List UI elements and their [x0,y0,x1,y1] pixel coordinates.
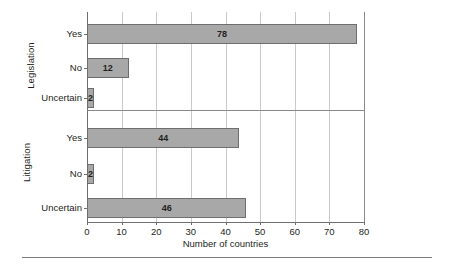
x-tick-label-0: 0 [84,226,89,237]
x-tick-10 [122,222,123,225]
category-axis-labels: Yes No Uncertain Yes No Uncertain [18,12,82,222]
bar-row-litigation-no[interactable]: 2 [87,164,364,184]
bar-row-litigation-yes[interactable]: 44 [87,128,364,148]
category-label-legislation-no: No [22,58,82,78]
x-tick-label-50: 50 [255,226,266,237]
category-label-litigation-no: No [22,164,82,184]
x-tick-80 [364,222,365,225]
bar-row-legislation-yes[interactable]: 78 [87,24,364,44]
x-tick-50 [260,222,261,225]
bar-litigation-no[interactable] [87,164,94,184]
x-tick-0 [87,222,88,225]
group-label-legislation: Legislation [0,14,14,106]
x-tick-40 [226,222,227,225]
bar-litigation-yes[interactable] [87,128,239,148]
x-tick-30 [191,222,192,225]
x-tick-label-20: 20 [151,226,162,237]
x-tick-label-10: 10 [116,226,127,237]
x-axis-title: Number of countries [87,238,364,249]
x-tick-20 [156,222,157,225]
panel-separator [87,110,364,111]
bar-row-litigation-uncertain[interactable]: 46 [87,198,364,218]
bottom-rule [22,257,432,258]
x-tick-label-40: 40 [220,226,231,237]
bar-litigation-uncertain[interactable] [87,198,246,218]
bar-legislation-uncertain[interactable] [87,88,94,108]
gridline-80 [364,12,365,222]
x-tick-60 [295,222,296,225]
x-tick-70 [329,222,330,225]
category-label-legislation-uncertain: Uncertain [22,88,82,108]
group-label-litigation: Litigation [0,110,14,204]
category-label-litigation-uncertain: Uncertain [22,198,82,218]
bar-legislation-yes[interactable] [87,24,357,44]
bar-row-legislation-no[interactable]: 12 [87,58,364,78]
bar-row-legislation-uncertain[interactable]: 2 [87,88,364,108]
x-tick-label-30: 30 [186,226,197,237]
x-tick-label-70: 70 [324,226,335,237]
x-tick-label-60: 60 [289,226,300,237]
plot-area: 78 12 2 44 2 46 [87,12,364,222]
x-tick-label-80: 80 [359,226,370,237]
chart-figure: Legislation Litigation Yes No Uncertain … [0,0,459,267]
category-label-legislation-yes: Yes [22,24,82,44]
bar-legislation-no[interactable] [87,58,129,78]
category-label-litigation-yes: Yes [22,128,82,148]
